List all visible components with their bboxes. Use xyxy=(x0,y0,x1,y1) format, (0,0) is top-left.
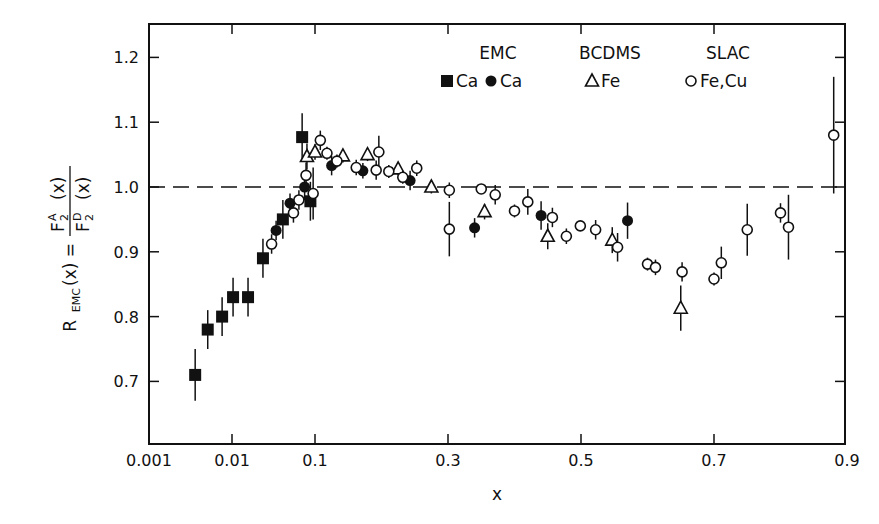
open-circle-marker xyxy=(444,185,454,195)
open-circle-marker xyxy=(374,147,384,157)
series-open-circle xyxy=(267,77,839,286)
x-tick-label: 0.5 xyxy=(568,451,593,470)
y-tick-label: 1.1 xyxy=(114,113,139,132)
open-circle-marker xyxy=(267,239,277,249)
open-circle-marker xyxy=(444,224,454,234)
filled-square-marker xyxy=(296,131,308,143)
ylabel-lhs: R xyxy=(60,320,80,332)
open-circle-marker xyxy=(829,130,839,140)
open-triangle-marker xyxy=(586,74,599,86)
legend-entry-label: Fe xyxy=(601,71,620,91)
y-tick-label: 0.8 xyxy=(114,308,139,327)
x-axis-title: x xyxy=(492,484,502,504)
emc-ratio-chart: 0.0010.010.10.30.50.70.90.70.80.91.01.11… xyxy=(0,0,879,524)
open-circle-marker xyxy=(575,221,585,231)
data-points xyxy=(189,77,839,401)
filled-circle-marker xyxy=(622,215,633,226)
filled-square-marker xyxy=(227,291,239,303)
ylabel-den-arg: (x) xyxy=(73,177,93,200)
open-triangle-marker xyxy=(425,180,438,192)
legend: EMCCaCaBCDMSFeSLACFe,Cu xyxy=(441,43,750,91)
ylabel-numerator: F xyxy=(48,222,68,232)
open-circle-marker xyxy=(412,163,422,173)
open-circle-marker xyxy=(308,188,318,198)
x-tick-label: 0.7 xyxy=(701,451,726,470)
open-circle-marker xyxy=(490,190,500,200)
open-circle-marker xyxy=(384,166,394,176)
filled-square-marker xyxy=(189,369,201,381)
y-axis-title: REMC(x) =F2A(x)F2D(x) xyxy=(46,166,96,332)
legend-group-title: SLAC xyxy=(706,43,750,63)
open-circle-marker xyxy=(591,225,601,235)
open-circle-marker xyxy=(523,197,533,207)
series-filled-square xyxy=(189,113,316,401)
open-circle-marker xyxy=(476,184,486,194)
open-circle-marker xyxy=(288,208,298,218)
open-circle-marker xyxy=(686,76,696,86)
open-circle-marker xyxy=(709,274,719,284)
y-tick-label: 0.7 xyxy=(114,372,139,391)
open-circle-marker xyxy=(371,165,381,175)
filled-circle-marker xyxy=(536,210,547,221)
legend-entry-label: Ca xyxy=(456,71,478,91)
ylabel-lhs-sub: EMC xyxy=(70,288,83,312)
open-circle-marker xyxy=(547,212,557,222)
open-circle-marker xyxy=(351,163,361,173)
open-circle-marker xyxy=(716,258,726,268)
ylabel-den-sub: 2 xyxy=(83,214,96,221)
open-circle-marker xyxy=(322,148,332,158)
legend-entry-label: Ca xyxy=(500,71,522,91)
open-circle-marker xyxy=(294,195,304,205)
open-circle-marker xyxy=(677,267,687,277)
legend-group-title: EMC xyxy=(479,43,516,63)
ylabel-num-arg: (x) xyxy=(48,177,68,200)
filled-square-marker xyxy=(277,213,289,225)
filled-square-marker xyxy=(257,252,269,264)
filled-circle-marker xyxy=(469,222,480,233)
open-circle-marker xyxy=(650,262,660,272)
open-triangle-marker xyxy=(309,145,322,157)
y-tick-label: 1.0 xyxy=(114,178,139,197)
axis-labels: x REMC(x) =F2A(x)F2D(x) xyxy=(46,166,502,504)
ylabel-denominator: F xyxy=(73,222,93,232)
legend-entry-label: Fe,Cu xyxy=(700,71,747,91)
open-circle-marker xyxy=(742,225,752,235)
x-tick-label: 0.001 xyxy=(126,451,172,470)
ylabel-num-sup: A xyxy=(46,213,59,221)
open-circle-marker xyxy=(613,242,623,252)
open-triangle-marker xyxy=(478,205,491,217)
open-circle-marker xyxy=(783,222,793,232)
open-triangle-marker xyxy=(674,301,687,313)
filled-square-marker xyxy=(441,75,453,87)
ylabel-lhs-arg: (x) = xyxy=(60,243,80,286)
ylabel-den-sup: D xyxy=(71,213,84,221)
x-tick-label: 0.1 xyxy=(302,451,327,470)
filled-circle-marker xyxy=(271,225,282,236)
open-circle-marker xyxy=(776,208,786,218)
open-circle-marker xyxy=(301,170,311,180)
y-tick-label: 1.2 xyxy=(114,48,139,67)
x-tick-label: 0.01 xyxy=(214,451,250,470)
filled-circle-marker xyxy=(486,76,497,87)
open-circle-marker xyxy=(398,172,408,182)
open-circle-marker xyxy=(332,156,342,166)
ylabel-num-sub: 2 xyxy=(58,214,71,221)
open-circle-marker xyxy=(510,206,520,216)
filled-square-marker xyxy=(202,324,214,336)
open-circle-marker xyxy=(315,135,325,145)
x-tick-label: 0.3 xyxy=(435,451,460,470)
filled-square-marker xyxy=(216,311,228,323)
legend-group-title: BCDMS xyxy=(579,43,641,63)
filled-square-marker xyxy=(242,291,254,303)
open-triangle-marker xyxy=(541,229,554,241)
open-circle-marker xyxy=(561,231,571,241)
y-tick-label: 0.9 xyxy=(114,243,139,262)
x-tick-label: 0.9 xyxy=(834,451,859,470)
open-triangle-marker xyxy=(361,148,374,160)
